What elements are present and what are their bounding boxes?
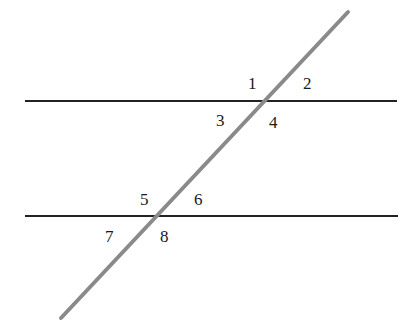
transversal-line	[61, 12, 348, 318]
angle-label-3: 3	[216, 111, 225, 130]
angle-label-4: 4	[269, 113, 278, 132]
angle-label-6: 6	[194, 190, 203, 209]
angle-label-5: 5	[140, 190, 149, 209]
angle-label-8: 8	[160, 227, 169, 246]
transversal-diagram: 1 2 3 4 5 6 7 8	[0, 0, 417, 335]
angle-label-1: 1	[248, 74, 257, 93]
angle-label-7: 7	[105, 227, 114, 246]
angle-label-2: 2	[303, 74, 312, 93]
